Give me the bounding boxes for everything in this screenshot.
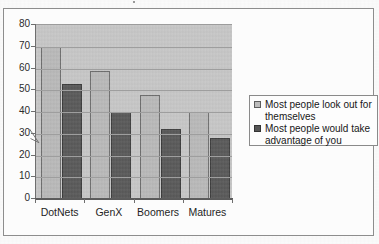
y-tick-mark xyxy=(31,111,35,112)
page-top-text-fragment xyxy=(0,0,379,7)
legend-swatch-light-icon xyxy=(254,101,261,108)
y-tick-mark xyxy=(31,155,35,156)
legend-label: Most people look out for themselves xyxy=(265,99,374,122)
legend-swatch-dark-icon xyxy=(254,125,261,132)
y-tick-label: 20 xyxy=(8,150,30,160)
legend-item[interactable]: Most people would take advantage of you xyxy=(254,123,374,146)
bar[interactable] xyxy=(210,138,230,199)
scan-speck xyxy=(133,1,135,3)
gridline xyxy=(35,90,232,91)
y-tick-label: 30 xyxy=(8,128,30,138)
bar[interactable] xyxy=(140,95,160,199)
bar[interactable] xyxy=(62,84,82,199)
x-tick-mark xyxy=(134,199,135,203)
bar[interactable] xyxy=(41,47,61,199)
y-axis-labels: 80706050403020100 xyxy=(4,9,30,237)
gridline xyxy=(35,156,232,157)
y-tick-mark xyxy=(31,46,35,47)
y-tick-label: 80 xyxy=(8,19,30,29)
gridline xyxy=(35,69,232,70)
y-tick-label: 0 xyxy=(8,193,30,203)
x-tick-label: DotNets xyxy=(35,205,84,219)
gridline xyxy=(35,134,232,135)
y-tick-label: 70 xyxy=(8,41,30,51)
y-tick-mark xyxy=(31,89,35,90)
x-tick-mark xyxy=(183,199,184,203)
plot-area xyxy=(35,24,232,198)
y-tick-mark xyxy=(31,68,35,69)
bar[interactable] xyxy=(161,129,181,199)
x-tick-mark xyxy=(35,199,36,203)
y-tick-label: 10 xyxy=(8,171,30,181)
y-tick-mark xyxy=(31,24,35,25)
y-tick-label: 40 xyxy=(8,106,30,116)
x-tick-label: Boomers xyxy=(134,205,183,219)
legend-label: Most people would take advantage of you xyxy=(265,123,374,146)
x-tick-label: GenX xyxy=(84,205,133,219)
y-tick-mark xyxy=(31,176,35,177)
gridline xyxy=(35,112,232,113)
x-axis-labels: DotNetsGenXBoomersMatures xyxy=(35,205,232,221)
chart-legend: Most people look out for themselves Most… xyxy=(249,95,378,146)
y-tick-label: 60 xyxy=(8,63,30,73)
x-tick-label: Matures xyxy=(183,205,232,219)
chart-frame: 80706050403020100 DotNetsGenXBoomersMatu… xyxy=(3,8,374,236)
gridline xyxy=(35,47,232,48)
y-tick-label: 50 xyxy=(8,84,30,94)
x-tick-mark xyxy=(84,199,85,203)
x-tick-mark xyxy=(232,199,233,203)
y-axis-line xyxy=(35,24,36,199)
gridline xyxy=(35,177,232,178)
legend-item[interactable]: Most people look out for themselves xyxy=(254,99,374,122)
y-tick-mark xyxy=(31,133,35,134)
